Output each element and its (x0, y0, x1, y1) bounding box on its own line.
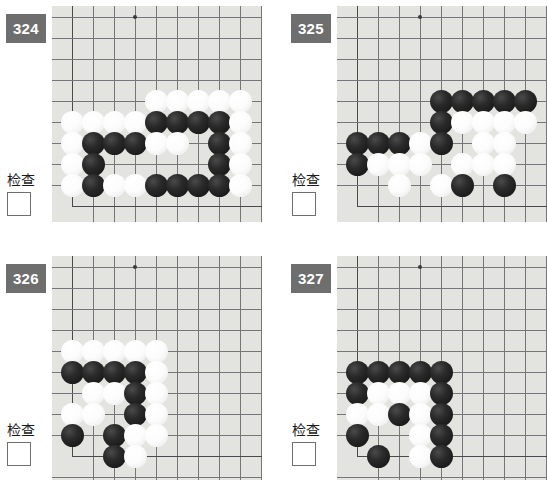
black-stone[interactable] (367, 361, 390, 384)
white-stone[interactable] (82, 340, 105, 363)
white-stone[interactable] (61, 174, 84, 197)
black-stone[interactable] (451, 174, 474, 197)
white-stone[interactable] (367, 382, 390, 405)
black-stone[interactable] (430, 445, 453, 468)
black-stone[interactable] (346, 424, 369, 447)
white-stone[interactable] (493, 153, 516, 176)
black-stone[interactable] (451, 90, 474, 113)
go-board-324[interactable] (52, 6, 262, 222)
black-stone[interactable] (103, 361, 126, 384)
white-stone[interactable] (187, 90, 210, 113)
white-stone[interactable] (229, 174, 252, 197)
black-stone[interactable] (61, 361, 84, 384)
white-stone[interactable] (409, 153, 432, 176)
check-checkbox[interactable] (7, 442, 31, 466)
black-stone[interactable] (166, 174, 189, 197)
black-stone[interactable] (208, 174, 231, 197)
white-stone[interactable] (145, 340, 168, 363)
white-stone[interactable] (229, 132, 252, 155)
white-stone[interactable] (103, 382, 126, 405)
check-checkbox[interactable] (292, 442, 316, 466)
black-stone[interactable] (367, 445, 390, 468)
white-stone[interactable] (472, 111, 495, 134)
black-stone[interactable] (124, 132, 147, 155)
white-stone[interactable] (145, 403, 168, 426)
white-stone[interactable] (493, 132, 516, 155)
black-stone[interactable] (346, 361, 369, 384)
white-stone[interactable] (61, 132, 84, 155)
white-stone[interactable] (229, 111, 252, 134)
white-stone[interactable] (451, 153, 474, 176)
white-stone[interactable] (367, 403, 390, 426)
black-stone[interactable] (103, 132, 126, 155)
black-stone[interactable] (388, 403, 411, 426)
black-stone[interactable] (124, 361, 147, 384)
black-stone[interactable] (82, 361, 105, 384)
black-stone[interactable] (493, 90, 516, 113)
white-stone[interactable] (61, 153, 84, 176)
black-stone[interactable] (103, 445, 126, 468)
white-stone[interactable] (61, 340, 84, 363)
black-stone[interactable] (145, 111, 168, 134)
white-stone[interactable] (409, 403, 432, 426)
black-stone[interactable] (409, 361, 432, 384)
check-checkbox[interactable] (7, 192, 31, 216)
white-stone[interactable] (82, 111, 105, 134)
white-stone[interactable] (124, 424, 147, 447)
black-stone[interactable] (82, 174, 105, 197)
white-stone[interactable] (103, 174, 126, 197)
white-stone[interactable] (367, 153, 390, 176)
white-stone[interactable] (103, 340, 126, 363)
black-stone[interactable] (124, 403, 147, 426)
white-stone[interactable] (145, 132, 168, 155)
black-stone[interactable] (430, 424, 453, 447)
white-stone[interactable] (430, 174, 453, 197)
black-stone[interactable] (166, 111, 189, 134)
black-stone[interactable] (187, 111, 210, 134)
white-stone[interactable] (103, 111, 126, 134)
black-stone[interactable] (145, 174, 168, 197)
black-stone[interactable] (208, 132, 231, 155)
black-stone[interactable] (82, 132, 105, 155)
black-stone[interactable] (208, 153, 231, 176)
white-stone[interactable] (61, 111, 84, 134)
black-stone[interactable] (103, 424, 126, 447)
white-stone[interactable] (145, 382, 168, 405)
white-stone[interactable] (145, 361, 168, 384)
black-stone[interactable] (346, 382, 369, 405)
black-stone[interactable] (346, 132, 369, 155)
white-stone[interactable] (409, 382, 432, 405)
go-board-327[interactable] (337, 256, 547, 480)
white-stone[interactable] (166, 90, 189, 113)
white-stone[interactable] (493, 111, 516, 134)
white-stone[interactable] (451, 111, 474, 134)
white-stone[interactable] (409, 424, 432, 447)
white-stone[interactable] (124, 445, 147, 468)
black-stone[interactable] (430, 382, 453, 405)
white-stone[interactable] (124, 111, 147, 134)
white-stone[interactable] (388, 153, 411, 176)
white-stone[interactable] (409, 132, 432, 155)
black-stone[interactable] (514, 90, 537, 113)
check-checkbox[interactable] (292, 192, 316, 216)
white-stone[interactable] (229, 153, 252, 176)
black-stone[interactable] (388, 361, 411, 384)
black-stone[interactable] (430, 361, 453, 384)
black-stone[interactable] (346, 153, 369, 176)
white-stone[interactable] (208, 90, 231, 113)
go-board-326[interactable] (52, 256, 262, 480)
black-stone[interactable] (61, 424, 84, 447)
white-stone[interactable] (409, 445, 432, 468)
black-stone[interactable] (187, 174, 210, 197)
white-stone[interactable] (388, 382, 411, 405)
white-stone[interactable] (346, 403, 369, 426)
white-stone[interactable] (145, 424, 168, 447)
go-board-325[interactable] (337, 6, 547, 222)
white-stone[interactable] (82, 382, 105, 405)
black-stone[interactable] (472, 90, 495, 113)
white-stone[interactable] (82, 403, 105, 426)
black-stone[interactable] (367, 132, 390, 155)
white-stone[interactable] (514, 111, 537, 134)
black-stone[interactable] (430, 132, 453, 155)
black-stone[interactable] (430, 403, 453, 426)
